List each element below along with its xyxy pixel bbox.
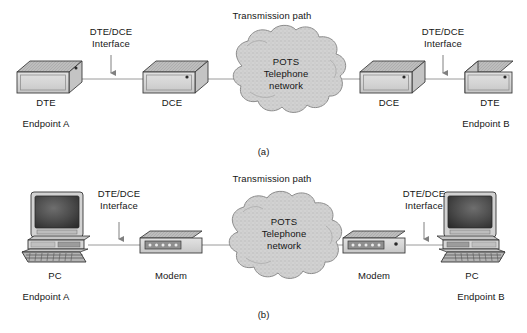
- caption-b: (b): [258, 309, 270, 320]
- label-dte-right: DTE: [480, 97, 499, 109]
- dte-dce-interface-label-left-a: DTE/DCE Interface: [90, 26, 132, 49]
- label-modem-right: Modem: [358, 270, 390, 282]
- transmission-path-label-a: Transmission path: [233, 10, 312, 22]
- interface-line1-left-b: DTE/DCE: [98, 188, 140, 200]
- sublabel-endpoint-b: Endpoint B: [462, 118, 509, 130]
- label-modem-left: Modem: [155, 270, 187, 282]
- sublabel-endpoint-a-b: Endpoint A: [23, 291, 70, 303]
- interface-line1-right-a: DTE/DCE: [422, 26, 464, 38]
- interface-line1-right-b: DTE/DCE: [403, 188, 445, 200]
- interface-line1-left-a: DTE/DCE: [90, 26, 132, 38]
- interface-line2-left-b: Interface: [98, 200, 140, 212]
- label-pc-right: PC: [465, 270, 478, 282]
- interface-line2-right-a: Interface: [422, 38, 464, 50]
- cloud-label-line3-a: network: [269, 80, 303, 92]
- dte-dce-interface-label-right-b: DTE/DCE Interface: [403, 188, 445, 211]
- dte-dce-interface-label-right-a: DTE/DCE Interface: [422, 26, 464, 49]
- cloud-label-line2-a: Telephone: [264, 68, 309, 80]
- label-dte-left: DTE: [36, 97, 55, 109]
- cloud-label-line1-a: POTS: [273, 56, 299, 68]
- cloud-label-line1-b: POTS: [271, 216, 297, 228]
- sublabel-endpoint-b-b: Endpoint B: [457, 291, 504, 303]
- interface-line2-right-b: Interface: [403, 200, 445, 212]
- panel-a: Transmission path DTE/DCE Interface DTE/…: [0, 0, 527, 166]
- cloud-label-line3-b: network: [267, 240, 301, 252]
- network-topology-figure: Transmission path DTE/DCE Interface DTE/…: [0, 0, 527, 333]
- cloud-label-line2-b: Telephone: [262, 228, 307, 240]
- label-pc-left: PC: [48, 270, 61, 282]
- sublabel-endpoint-a: Endpoint A: [23, 118, 70, 130]
- panel-b: Transmission path DTE/DCE Interface DTE/…: [0, 166, 527, 333]
- label-dce-left: DCE: [162, 97, 182, 109]
- label-dce-right: DCE: [379, 97, 399, 109]
- interface-line2-left-a: Interface: [90, 38, 132, 50]
- transmission-path-label-b: Transmission path: [233, 173, 312, 185]
- caption-a: (a): [258, 146, 270, 157]
- dte-dce-interface-label-left-b: DTE/DCE Interface: [98, 188, 140, 211]
